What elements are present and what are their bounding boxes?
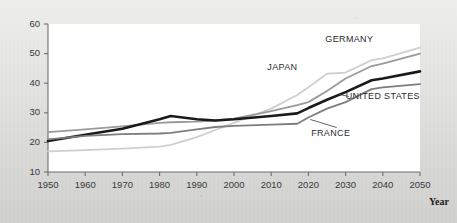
x-tick-label: 1960 [75, 179, 96, 190]
x-tick-label: 2000 [223, 179, 244, 190]
y-tick-label: 40 [29, 77, 40, 88]
series-label-united-states: UNITED STATES [346, 91, 420, 101]
x-axis-ticks: 1950196019701980199020002010202020302040… [37, 172, 430, 190]
y-tick-label: 10 [29, 166, 40, 177]
series-label-japan: JAPAN [267, 62, 297, 72]
line-chart: 102030405060 195019601970198019902000201… [0, 0, 457, 223]
y-axis-ticks: 102030405060 [29, 18, 48, 177]
x-tick-label: 1970 [112, 179, 133, 190]
x-tick-label: 2040 [372, 179, 393, 190]
x-axis-title: Year [429, 196, 450, 207]
x-tick-label: 1950 [37, 179, 58, 190]
series-label-germany: GERMANY [325, 34, 373, 44]
y-tick-label: 50 [29, 47, 40, 58]
x-tick-label: 2030 [335, 179, 356, 190]
x-tick-label: 2020 [298, 179, 319, 190]
x-tick-label: 2010 [261, 179, 282, 190]
series-line-united-states [48, 71, 420, 141]
france-leader-line [310, 120, 336, 128]
series-label-france: FRANCE [311, 128, 350, 138]
y-tick-label: 30 [29, 106, 40, 117]
figure-container: 102030405060 195019601970198019902000201… [0, 0, 457, 223]
x-tick-label: 1990 [186, 179, 207, 190]
y-tick-label: 60 [29, 18, 40, 29]
x-tick-label: 2050 [409, 179, 430, 190]
x-tick-label: 1980 [149, 179, 170, 190]
y-tick-label: 20 [29, 136, 40, 147]
